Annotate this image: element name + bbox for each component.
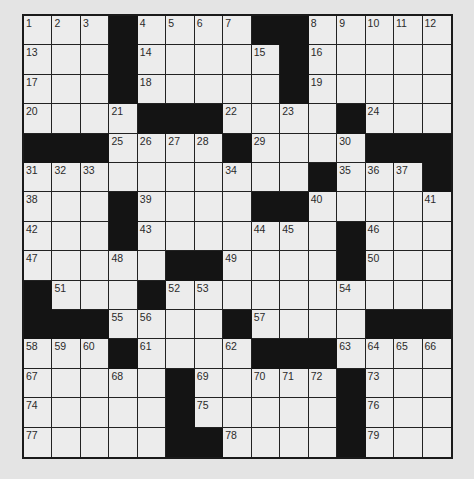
crossword-cell[interactable] — [337, 75, 365, 104]
crossword-cell[interactable]: 54 — [337, 281, 365, 310]
crossword-cell[interactable] — [109, 398, 137, 427]
crossword-cell[interactable]: 47 — [24, 251, 52, 280]
crossword-cell[interactable]: 2 — [52, 16, 80, 45]
crossword-cell[interactable] — [223, 222, 251, 251]
crossword-cell[interactable] — [81, 222, 109, 251]
crossword-cell[interactable] — [52, 428, 80, 457]
crossword-cell[interactable] — [138, 398, 166, 427]
crossword-cell[interactable] — [423, 428, 451, 457]
crossword-cell[interactable] — [166, 45, 194, 74]
crossword-cell[interactable]: 63 — [337, 339, 365, 368]
crossword-cell[interactable]: 13 — [24, 45, 52, 74]
crossword-cell[interactable] — [223, 192, 251, 221]
crossword-cell[interactable]: 62 — [223, 339, 251, 368]
crossword-cell[interactable]: 37 — [394, 163, 422, 192]
crossword-cell[interactable]: 52 — [166, 281, 194, 310]
crossword-cell[interactable] — [223, 281, 251, 310]
crossword-cell[interactable] — [280, 163, 308, 192]
crossword-cell[interactable] — [52, 45, 80, 74]
crossword-cell[interactable]: 20 — [24, 104, 52, 133]
crossword-cell[interactable]: 48 — [109, 251, 137, 280]
crossword-cell[interactable]: 29 — [252, 134, 280, 163]
crossword-cell[interactable] — [252, 428, 280, 457]
crossword-cell[interactable] — [423, 398, 451, 427]
crossword-cell[interactable]: 59 — [52, 339, 80, 368]
crossword-cell[interactable]: 61 — [138, 339, 166, 368]
crossword-cell[interactable] — [394, 192, 422, 221]
crossword-cell[interactable] — [138, 428, 166, 457]
crossword-cell[interactable] — [252, 251, 280, 280]
crossword-cell[interactable]: 12 — [423, 16, 451, 45]
crossword-cell[interactable] — [195, 163, 223, 192]
crossword-cell[interactable]: 24 — [366, 104, 394, 133]
crossword-cell[interactable] — [394, 104, 422, 133]
crossword-cell[interactable]: 44 — [252, 222, 280, 251]
crossword-cell[interactable] — [195, 310, 223, 339]
crossword-cell[interactable]: 66 — [423, 339, 451, 368]
crossword-cell[interactable]: 1 — [24, 16, 52, 45]
crossword-cell[interactable] — [366, 192, 394, 221]
crossword-cell[interactable]: 39 — [138, 192, 166, 221]
crossword-cell[interactable]: 58 — [24, 339, 52, 368]
crossword-cell[interactable] — [280, 428, 308, 457]
crossword-cell[interactable]: 14 — [138, 45, 166, 74]
crossword-cell[interactable] — [223, 75, 251, 104]
crossword-cell[interactable] — [166, 222, 194, 251]
crossword-cell[interactable] — [423, 222, 451, 251]
crossword-cell[interactable]: 49 — [223, 251, 251, 280]
crossword-cell[interactable] — [81, 428, 109, 457]
crossword-cell[interactable]: 33 — [81, 163, 109, 192]
crossword-cell[interactable]: 73 — [366, 369, 394, 398]
crossword-cell[interactable] — [138, 369, 166, 398]
crossword-cell[interactable] — [280, 281, 308, 310]
crossword-cell[interactable] — [195, 339, 223, 368]
crossword-cell[interactable] — [81, 398, 109, 427]
crossword-cell[interactable] — [166, 310, 194, 339]
crossword-cell[interactable] — [423, 104, 451, 133]
crossword-cell[interactable] — [366, 75, 394, 104]
crossword-cell[interactable] — [81, 75, 109, 104]
crossword-cell[interactable] — [109, 163, 137, 192]
crossword-cell[interactable] — [337, 45, 365, 74]
crossword-cell[interactable] — [138, 163, 166, 192]
crossword-cell[interactable] — [195, 222, 223, 251]
crossword-cell[interactable]: 21 — [109, 104, 137, 133]
crossword-cell[interactable]: 45 — [280, 222, 308, 251]
crossword-cell[interactable] — [366, 45, 394, 74]
crossword-cell[interactable]: 60 — [81, 339, 109, 368]
crossword-cell[interactable] — [394, 369, 422, 398]
crossword-cell[interactable]: 32 — [52, 163, 80, 192]
crossword-cell[interactable] — [280, 398, 308, 427]
crossword-cell[interactable]: 75 — [195, 398, 223, 427]
crossword-cell[interactable] — [81, 192, 109, 221]
crossword-cell[interactable]: 26 — [138, 134, 166, 163]
crossword-cell[interactable] — [138, 251, 166, 280]
crossword-cell[interactable]: 56 — [138, 310, 166, 339]
crossword-cell[interactable] — [423, 75, 451, 104]
crossword-cell[interactable] — [309, 398, 337, 427]
crossword-cell[interactable] — [280, 134, 308, 163]
crossword-cell[interactable] — [81, 45, 109, 74]
crossword-cell[interactable] — [394, 428, 422, 457]
crossword-cell[interactable] — [337, 310, 365, 339]
crossword-cell[interactable] — [394, 75, 422, 104]
crossword-cell[interactable] — [252, 75, 280, 104]
crossword-cell[interactable]: 10 — [366, 16, 394, 45]
crossword-cell[interactable] — [166, 163, 194, 192]
crossword-cell[interactable]: 72 — [309, 369, 337, 398]
crossword-cell[interactable] — [52, 398, 80, 427]
crossword-cell[interactable] — [337, 192, 365, 221]
crossword-cell[interactable] — [423, 251, 451, 280]
crossword-cell[interactable] — [52, 75, 80, 104]
crossword-cell[interactable]: 50 — [366, 251, 394, 280]
crossword-cell[interactable]: 30 — [337, 134, 365, 163]
crossword-cell[interactable] — [309, 428, 337, 457]
crossword-cell[interactable] — [52, 192, 80, 221]
crossword-cell[interactable] — [309, 251, 337, 280]
crossword-cell[interactable]: 74 — [24, 398, 52, 427]
crossword-cell[interactable] — [166, 75, 194, 104]
crossword-cell[interactable] — [195, 75, 223, 104]
crossword-cell[interactable]: 36 — [366, 163, 394, 192]
crossword-cell[interactable] — [252, 281, 280, 310]
crossword-cell[interactable]: 57 — [252, 310, 280, 339]
